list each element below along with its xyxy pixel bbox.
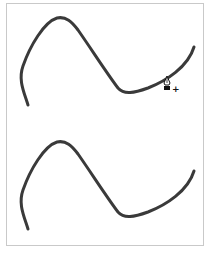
artboard-canvas[interactable]: +	[0, 0, 211, 255]
vector-paths[interactable]	[0, 0, 211, 255]
lower-wave-path[interactable]	[21, 142, 194, 229]
pen-add-anchor-cursor-icon: +	[162, 75, 180, 95]
plus-icon: +	[172, 84, 180, 94]
